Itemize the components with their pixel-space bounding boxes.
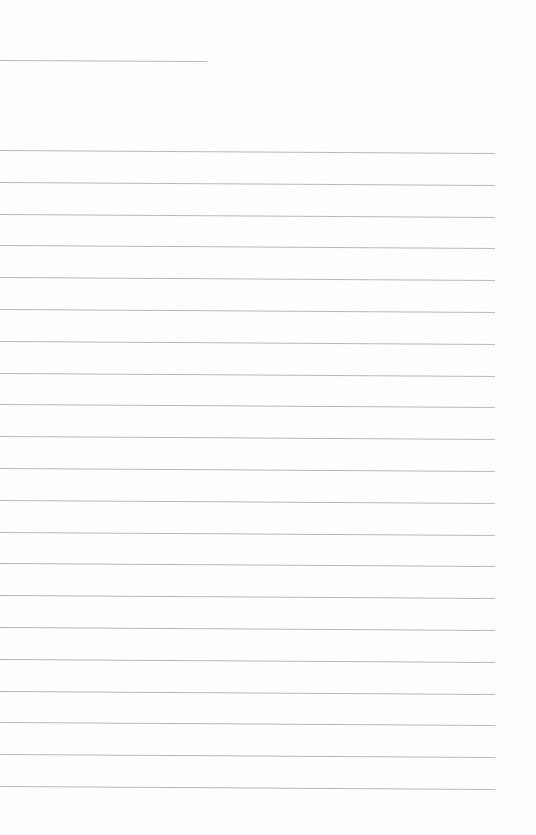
ruled-line bbox=[0, 627, 495, 631]
ruled-line bbox=[0, 341, 495, 345]
ruled-line bbox=[0, 659, 495, 663]
ruled-line bbox=[0, 245, 495, 249]
ruled-line bbox=[0, 786, 495, 790]
ruled-line bbox=[0, 277, 495, 281]
ruled-line bbox=[0, 309, 495, 313]
ruled-line bbox=[0, 691, 495, 695]
ruled-line bbox=[0, 722, 495, 726]
ruled-line bbox=[0, 214, 495, 218]
ruled-line bbox=[0, 595, 495, 599]
ruled-line bbox=[0, 373, 495, 377]
ruled-line bbox=[0, 150, 495, 154]
header-rule-line bbox=[0, 60, 207, 62]
notepaper-page bbox=[0, 0, 536, 835]
ruled-line bbox=[0, 563, 495, 567]
ruled-line bbox=[0, 500, 495, 504]
ruled-line bbox=[0, 182, 495, 186]
ruled-line bbox=[0, 404, 495, 408]
ruled-line bbox=[0, 468, 495, 472]
ruled-line bbox=[0, 532, 495, 536]
ruled-line bbox=[0, 436, 495, 440]
ruled-line bbox=[0, 754, 495, 758]
